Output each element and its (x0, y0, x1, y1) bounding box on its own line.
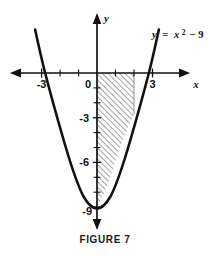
eqn-exponent: 2 (182, 28, 186, 37)
y-tick-label-neg3: -3 (79, 112, 89, 124)
eqn-y: y (150, 29, 157, 40)
y-axis-label: y (102, 12, 109, 24)
svg-text:y = x: y = x 2 − 9 (150, 26, 204, 41)
y-tick-label-neg9: -9 (82, 205, 92, 217)
eqn-x: x (173, 29, 179, 40)
x-tick-label-3: 3 (149, 78, 155, 90)
x-axis-label: x (192, 78, 199, 90)
curve-equation-label: y = x 2 − 9 (150, 26, 204, 41)
x-tick-label-neg3: -3 (37, 78, 47, 90)
y-tick-label-neg6: -6 (79, 156, 89, 168)
figure-container: -3 0 3 -3 -6 -9 y x y = x 2 − 9 FIGURE 7 (0, 0, 210, 257)
figure-caption: FIGURE 7 (0, 234, 210, 245)
eqn-minus-nine: − 9 (190, 29, 204, 40)
parabola-plot: -3 0 3 -3 -6 -9 y x y = x 2 − 9 (0, 0, 210, 232)
x-tick-label-zero: 0 (85, 78, 91, 90)
eqn-equals: = (162, 29, 168, 40)
